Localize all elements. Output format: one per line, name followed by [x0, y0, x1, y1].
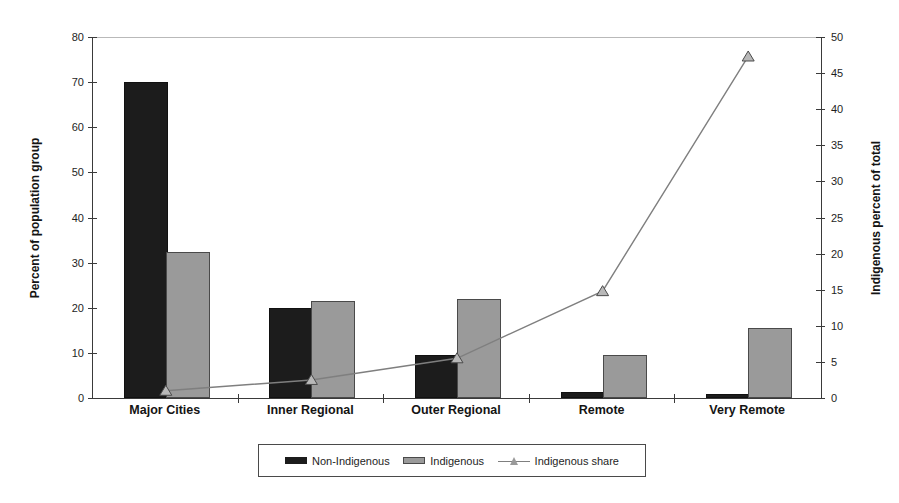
x-axis-tick	[238, 394, 239, 403]
indigenous-share-line-layer	[93, 37, 821, 398]
right-axis-tick-label: 25	[831, 211, 865, 225]
right-axis-tick-label: 5	[831, 355, 865, 369]
left-axis-tick	[88, 308, 97, 309]
left-axis-tick	[88, 172, 97, 173]
category-label: Outer Regional	[383, 403, 529, 417]
right-axis-tick	[816, 362, 825, 363]
indigenous-share-line	[166, 56, 748, 390]
legend-label: Indigenous	[430, 455, 484, 467]
legend-item-non-indigenous: Non-Indigenous	[285, 455, 390, 467]
right-axis-tick	[816, 290, 825, 291]
non-indigenous-swatch-icon	[285, 457, 307, 464]
right-axis-tick-label: 45	[831, 66, 865, 80]
left-axis-tick	[88, 398, 97, 399]
indigenous-swatch-icon	[403, 457, 425, 464]
plot-area	[92, 37, 822, 399]
right-axis-tick-label: 30	[831, 174, 865, 188]
triangle-marker	[597, 286, 609, 296]
indigenous-share-line-icon	[498, 456, 530, 466]
right-axis-tick	[816, 398, 825, 399]
right-axis-tick	[816, 109, 825, 110]
left-axis-tick	[88, 353, 97, 354]
right-axis-tick	[816, 73, 825, 74]
right-axis-tick	[816, 145, 825, 146]
left-axis-tick	[88, 37, 97, 38]
left-axis-tick	[88, 127, 97, 128]
legend-item-indigenous-share: Indigenous share	[498, 455, 619, 467]
right-axis-tick-label: 40	[831, 102, 865, 116]
left-axis-tick-label: 50	[50, 165, 84, 179]
category-label: Inner Regional	[238, 403, 384, 417]
right-axis-tick-label: 50	[831, 30, 865, 44]
x-axis-tick	[383, 394, 384, 403]
left-axis-tick-label: 60	[50, 120, 84, 134]
legend-item-indigenous: Indigenous	[403, 455, 484, 467]
right-axis-tick	[816, 254, 825, 255]
x-axis-tick	[674, 394, 675, 403]
right-axis-tick-label: 0	[831, 391, 865, 405]
right-axis-tick	[816, 37, 825, 38]
category-label: Major Cities	[92, 403, 238, 417]
left-axis-tick-label: 70	[50, 75, 84, 89]
right-axis-tick	[816, 181, 825, 182]
right-axis-title: Indigenous percent of total	[869, 38, 883, 399]
legend-label: Non-Indigenous	[312, 455, 390, 467]
chart: Percent of population group Indigenous p…	[0, 0, 899, 503]
triangle-marker	[742, 51, 754, 61]
left-axis-tick	[88, 82, 97, 83]
right-axis-tick	[816, 326, 825, 327]
x-axis-tick	[529, 394, 530, 403]
left-axis-tick-label: 80	[50, 30, 84, 44]
right-axis-tick-label: 35	[831, 138, 865, 152]
left-axis-tick-label: 20	[50, 301, 84, 315]
left-axis-tick	[88, 218, 97, 219]
left-axis-tick	[88, 263, 97, 264]
left-axis-tick-label: 30	[50, 256, 84, 270]
triangle-marker	[451, 353, 463, 363]
right-axis-tick-label: 20	[831, 247, 865, 261]
left-axis-title: Percent of population group	[28, 38, 42, 399]
right-axis-tick	[816, 218, 825, 219]
category-label: Remote	[529, 403, 675, 417]
left-axis-tick-label: 40	[50, 211, 84, 225]
category-label: Very Remote	[674, 403, 820, 417]
right-axis-tick-label: 10	[831, 319, 865, 333]
left-axis-tick-label: 0	[50, 391, 84, 405]
legend: Non-IndigenousIndigenousIndigenous share	[258, 444, 646, 477]
right-axis-tick-label: 15	[831, 283, 865, 297]
left-axis-tick-label: 10	[50, 346, 84, 360]
legend-label: Indigenous share	[535, 455, 619, 467]
